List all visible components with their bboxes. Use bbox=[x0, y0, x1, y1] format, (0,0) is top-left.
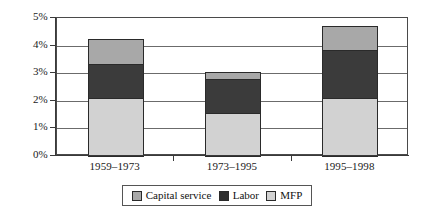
y-axis-labels: 5%4%3%2%1%0% bbox=[0, 0, 48, 220]
bar-segment-mfp bbox=[205, 113, 261, 157]
bar-group bbox=[88, 18, 144, 156]
y-axis-tick bbox=[50, 17, 56, 18]
y-axis-tick bbox=[50, 100, 56, 101]
bar-segment-mfp bbox=[322, 98, 378, 157]
legend-swatch-mfp-icon bbox=[266, 191, 276, 201]
y-axis-tick bbox=[50, 72, 56, 73]
x-axis-tick bbox=[173, 156, 174, 161]
bar-segment-labor bbox=[88, 64, 144, 100]
legend-item: Labor bbox=[219, 190, 259, 201]
legend-label: Labor bbox=[233, 190, 259, 201]
plot-area bbox=[56, 17, 408, 155]
chart-legend: Capital serviceLaborMFP bbox=[122, 185, 312, 206]
legend-label: Capital service bbox=[146, 190, 212, 201]
bar-segment-labor bbox=[322, 50, 378, 99]
y-axis-tick-label: 2% bbox=[4, 93, 48, 105]
y-axis-tick bbox=[50, 45, 56, 46]
x-axis-tick-label: 1973–1995 bbox=[172, 160, 292, 172]
bar-segment-labor bbox=[205, 79, 261, 115]
bar-segment-mfp bbox=[88, 98, 144, 157]
y-axis-tick-label: 5% bbox=[4, 10, 48, 22]
y-axis-tick bbox=[50, 155, 56, 156]
bar-segment-capital bbox=[205, 72, 261, 80]
stacked-bar-chart: 5%4%3%2%1%0% Capital serviceLaborMFP 195… bbox=[0, 0, 424, 220]
y-axis-tick-label: 4% bbox=[4, 38, 48, 50]
y-axis-tick-label: 1% bbox=[4, 120, 48, 132]
x-axis-line bbox=[55, 155, 409, 156]
x-axis-tick-label: 1995–1998 bbox=[289, 160, 409, 172]
bar-segment-capital bbox=[88, 39, 144, 65]
x-axis-tick bbox=[291, 156, 292, 161]
legend-swatch-labor-icon bbox=[219, 191, 229, 201]
legend-item: Capital service bbox=[132, 190, 212, 201]
y-axis-tick bbox=[50, 127, 56, 128]
bar-group bbox=[205, 18, 261, 156]
legend-swatch-capital-icon bbox=[132, 191, 142, 201]
y-axis-tick-label: 0% bbox=[4, 148, 48, 160]
legend-item: MFP bbox=[266, 190, 302, 201]
bar-group bbox=[322, 18, 378, 156]
bar-segment-capital bbox=[322, 26, 378, 50]
y-axis-tick-label: 3% bbox=[4, 65, 48, 77]
legend-label: MFP bbox=[280, 190, 302, 201]
x-axis-tick-label: 1959–1973 bbox=[55, 160, 175, 172]
